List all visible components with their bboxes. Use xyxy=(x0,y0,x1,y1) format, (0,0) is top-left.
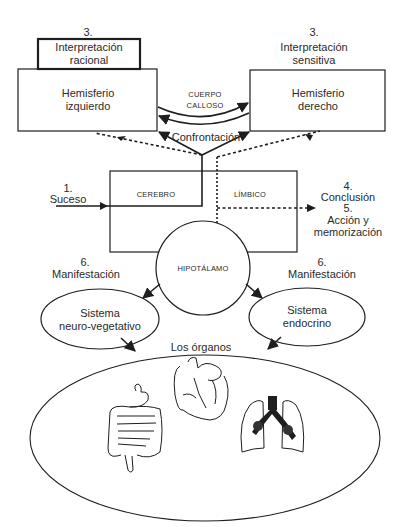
organs-ellipse xyxy=(30,355,380,521)
sensitive-interpretation-line1: Interpretación xyxy=(280,41,347,54)
dashed-arrowhead-right xyxy=(305,134,313,141)
confrontation-label: Confrontación xyxy=(172,131,241,144)
intestines-icon xyxy=(108,384,162,472)
right-hemisphere-label-line2: derecho xyxy=(298,100,338,113)
endocrine-label-line1: Sistema xyxy=(287,304,327,317)
corpus-callosum-label-line2: CALLOSO xyxy=(187,99,224,112)
step6-left-manifestation-label: Manifestación xyxy=(52,268,120,281)
neurovegetative-label-line1: Sistema xyxy=(80,307,120,320)
arrow-to-neurovegetative xyxy=(143,284,160,298)
dotted-arrowhead-right xyxy=(307,204,316,212)
limbic-label: LÍMBICO xyxy=(234,188,266,201)
rational-interpretation-line2: racional xyxy=(70,54,109,67)
organs-label: Los órganos xyxy=(171,341,232,354)
sensitive-interpretation-line2: sensitiva xyxy=(293,54,336,67)
left-hemisphere-label-line1: Hemisferio xyxy=(62,87,115,100)
brain-label: CEREBRO xyxy=(137,188,176,201)
step3-left-number: 3. xyxy=(83,26,92,39)
event-arrowhead xyxy=(100,202,108,210)
step6-right-manifestation-label: Manifestación xyxy=(288,268,356,281)
rational-interpretation-line1: Interpretación xyxy=(55,41,122,54)
step5-action-line2: memorización xyxy=(314,226,382,239)
corpus-callosum-arc-left xyxy=(159,113,249,124)
hypothalamus-label: HIPOTÁLAMO xyxy=(177,262,228,275)
heart-icon xyxy=(174,358,228,421)
right-hemisphere-label-line1: Hemisferio xyxy=(292,87,345,100)
lungs-icon xyxy=(241,396,304,452)
step1-event-label: Suceso xyxy=(50,193,87,206)
arrow-to-endocrine xyxy=(246,284,262,298)
neurovegetative-label-line2: neuro-vegetativo xyxy=(59,320,141,333)
left-hemisphere-label-line2: izquierdo xyxy=(66,100,111,113)
step3-right-number: 3. xyxy=(309,26,318,39)
endocrine-label-line2: endocrino xyxy=(283,317,331,330)
